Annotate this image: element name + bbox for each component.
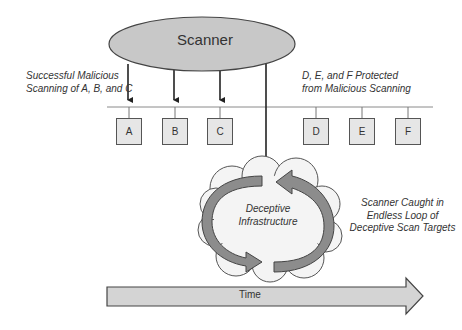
host-box-b: B bbox=[162, 118, 188, 145]
caption-line: Scanner Caught in bbox=[345, 197, 460, 210]
endless-loop-caption: Scanner Caught in Endless Loop of Decept… bbox=[345, 197, 460, 235]
host-box-a: A bbox=[116, 118, 142, 145]
caption-line: D, E, and F Protected bbox=[302, 70, 411, 83]
caption-line: Successful Malicious bbox=[26, 70, 132, 83]
label-line: Infrastructure bbox=[218, 216, 318, 229]
diagram-canvas bbox=[0, 0, 462, 330]
host-box-d: D bbox=[303, 118, 329, 145]
caption-line: Scanning of A, B, and C bbox=[26, 83, 132, 96]
host-box-f: F bbox=[395, 118, 421, 145]
scanner-label: Scanner bbox=[160, 31, 250, 48]
caption-line: Endless Loop of bbox=[345, 210, 460, 223]
deceptive-infrastructure-label: Deceptive Infrastructure bbox=[218, 203, 318, 228]
scan-arrows bbox=[128, 62, 266, 180]
time-label: Time bbox=[210, 289, 290, 300]
host-drop-lines bbox=[129, 107, 408, 118]
host-box-c: C bbox=[207, 118, 233, 145]
label-line: Deceptive bbox=[218, 203, 318, 216]
protected-caption: D, E, and F Protected from Malicious Sca… bbox=[302, 70, 411, 95]
caption-line: Deceptive Scan Targets bbox=[345, 222, 460, 235]
successful-scan-caption: Successful Malicious Scanning of A, B, a… bbox=[26, 70, 132, 95]
host-box-e: E bbox=[349, 118, 375, 145]
caption-line: from Malicious Scanning bbox=[302, 83, 411, 96]
